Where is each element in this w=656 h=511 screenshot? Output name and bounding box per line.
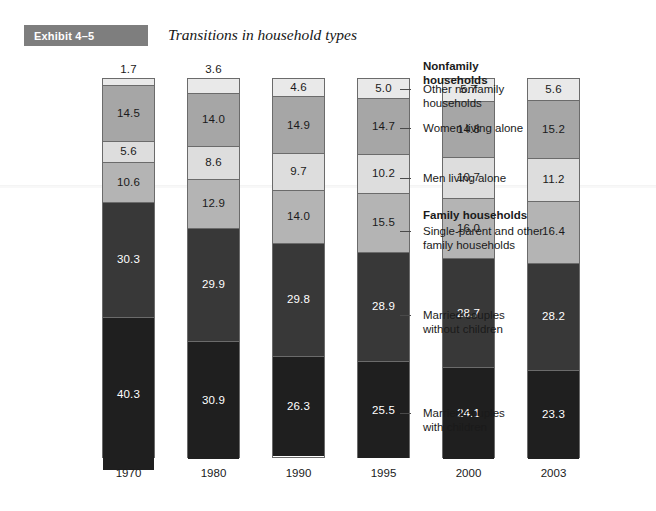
x-axis-label-2003: 2003 <box>527 467 580 479</box>
bar-segment[interactable]: 10.2 <box>358 154 409 193</box>
segment-value-label: 1.7 <box>120 64 136 76</box>
bar-segment[interactable]: 5.6 <box>103 141 154 162</box>
bar-segment[interactable]: 15.5 <box>358 193 409 252</box>
segment-value-label: 15.2 <box>542 124 565 136</box>
segment-value-label: 4.6 <box>290 82 306 94</box>
legend-group-heading-family: Family households <box>423 208 527 222</box>
bar-stack: 5.014.710.215.528.925.5 <box>357 78 410 458</box>
bar-segment[interactable]: 11.2 <box>528 158 579 201</box>
bar-stack: 4.614.99.714.029.826.3 <box>272 78 325 458</box>
x-axis-label-1990: 1990 <box>272 467 325 479</box>
segment-value-label: 30.9 <box>202 395 225 407</box>
legend-connector-line <box>400 89 411 90</box>
bar-segment[interactable]: 14.0 <box>188 93 239 146</box>
bar-segment[interactable]: 14.7 <box>358 98 409 154</box>
segment-value-label: 14.9 <box>287 120 310 132</box>
legend-connector-line <box>400 315 411 316</box>
bar-stack: 1.714.55.610.630.340.3 <box>102 78 155 458</box>
legend-item-women-living-alone: Women living alone <box>423 121 523 135</box>
segment-value-label: 8.6 <box>205 157 221 169</box>
legend-item-married-without-children: Married couples without children <box>423 308 505 336</box>
segment-value-label: 25.5 <box>372 405 395 417</box>
bar-segment[interactable]: 25.5 <box>358 361 409 458</box>
bar-segment[interactable]: 14.0 <box>273 190 324 243</box>
segment-value-label: 23.3 <box>542 409 565 421</box>
bar-segment[interactable]: 30.3 <box>103 202 154 317</box>
segment-value-label: 28.2 <box>542 311 565 323</box>
segment-value-label: 10.2 <box>372 168 395 180</box>
bar-segment[interactable]: 15.2 <box>528 100 579 158</box>
segment-value-label: 16.4 <box>542 226 565 238</box>
bar-stack: 3.614.08.612.929.930.9 <box>187 78 240 458</box>
segment-value-label: 9.7 <box>290 166 306 178</box>
segment-value-label: 11.2 <box>543 174 565 186</box>
bar-segment[interactable]: 14.9 <box>273 96 324 153</box>
legend-item-married-with-children: Married couples with children <box>423 406 505 434</box>
bar-segment[interactable]: 3.6 <box>188 79 239 93</box>
bar-column-1995[interactable]: 5.014.710.215.528.925.5 <box>357 78 410 458</box>
x-axis-label-1980: 1980 <box>187 467 240 479</box>
segment-value-label: 3.6 <box>205 64 221 76</box>
bar-segment[interactable]: 8.6 <box>188 146 239 179</box>
bar-segment[interactable]: 9.7 <box>273 153 324 190</box>
bar-segment[interactable]: 4.6 <box>273 79 324 96</box>
bar-column-1990[interactable]: 4.614.99.714.029.826.3 <box>272 78 325 458</box>
legend-item-men-living-alone: Men living alone <box>423 171 506 185</box>
segment-value-label: 5.0 <box>375 83 391 95</box>
bar-segment[interactable]: 40.3 <box>103 317 154 470</box>
segment-value-label: 26.3 <box>287 401 310 413</box>
bar-segment[interactable]: 12.9 <box>188 179 239 228</box>
bar-segment[interactable]: 10.6 <box>103 162 154 202</box>
bar-stack: 5.615.211.216.428.223.3 <box>527 78 580 458</box>
bar-segment[interactable]: 28.9 <box>358 252 409 362</box>
segment-value-label: 14.0 <box>202 114 225 126</box>
segment-value-label: 40.3 <box>117 389 140 401</box>
segment-value-label: 30.3 <box>117 254 140 266</box>
x-axis-label-1970: 1970 <box>102 467 155 479</box>
bar-segment[interactable]: 26.3 <box>273 356 324 456</box>
legend-connector-line <box>400 231 411 232</box>
segment-value-label: 10.6 <box>117 177 140 189</box>
bar-stack: 5.714.810.716.028.724.1 <box>442 78 495 458</box>
x-axis-label-1995: 1995 <box>357 467 410 479</box>
bar-segment[interactable]: 29.9 <box>188 228 239 342</box>
segment-value-label: 28.9 <box>372 301 395 313</box>
bar-column-2003[interactable]: 5.615.211.216.428.223.3 <box>527 78 580 458</box>
segment-value-label: 5.6 <box>545 84 561 96</box>
legend-item-single-parent-households: Single-parent and other family household… <box>423 224 543 252</box>
segment-value-label: 29.8 <box>287 294 310 306</box>
bar-segment[interactable]: 28.2 <box>528 263 579 370</box>
legend-connector-line <box>400 413 411 414</box>
stacked-bar-chart: 1.714.55.610.630.340.319703.614.08.612.9… <box>0 0 656 511</box>
bar-segment[interactable]: 23.3 <box>528 370 579 459</box>
segment-value-label: 5.6 <box>120 146 136 158</box>
segment-value-label: 14.5 <box>117 108 140 120</box>
segment-value-label: 15.5 <box>372 217 395 229</box>
segment-value-label: 29.9 <box>202 279 225 291</box>
bar-segment[interactable]: 5.6 <box>528 79 579 100</box>
segment-value-label: 14.0 <box>287 211 310 223</box>
x-axis-label-2000: 2000 <box>442 467 495 479</box>
legend-connector-line <box>400 178 411 179</box>
legend-connector-line <box>400 128 411 129</box>
segment-value-label: 12.9 <box>202 198 225 210</box>
bar-column-1970[interactable]: 1.714.55.610.630.340.3 <box>102 78 155 458</box>
bar-segment[interactable]: 14.5 <box>103 85 154 140</box>
bar-column-1980[interactable]: 3.614.08.612.929.930.9 <box>187 78 240 458</box>
bar-segment[interactable]: 29.8 <box>273 243 324 356</box>
segment-value-label: 14.7 <box>372 121 395 133</box>
legend-item-other-nonfamily-households: Other nonfamily households <box>423 82 504 110</box>
bar-segment[interactable]: 30.9 <box>188 341 239 458</box>
bar-column-2000[interactable]: 5.714.810.716.028.724.1 <box>442 78 495 458</box>
